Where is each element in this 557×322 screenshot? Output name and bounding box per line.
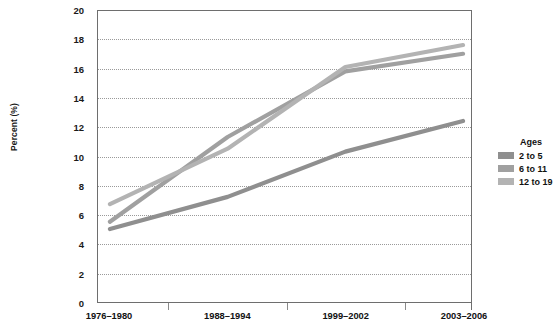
legend-swatch-icon	[498, 165, 514, 172]
y-axis-tick-label: 12	[73, 122, 84, 133]
y-axis-tick-label: 8	[79, 180, 84, 191]
x-axis-tick-labels: 1976–19801988–19941999–20022003–2006	[97, 311, 472, 322]
y-axis-tick-label: 6	[79, 210, 84, 221]
series-lines-svg	[98, 10, 471, 302]
x-axis-tick	[405, 303, 406, 310]
y-axis-tick-label: 14	[73, 92, 84, 103]
series-line-1	[110, 54, 463, 222]
y-axis-tick-label: 16	[73, 63, 84, 74]
legend-item-label: 2 to 5	[519, 150, 543, 162]
x-axis-tick	[168, 303, 169, 310]
y-axis-tick-label: 2	[79, 268, 84, 279]
legend-item[interactable]: 12 to 19	[498, 175, 556, 188]
x-axis-tick-label: 1976–1980	[86, 311, 133, 321]
y-axis-tick-label: 10	[73, 151, 84, 162]
x-axis-tick	[287, 303, 288, 310]
y-axis-tick-label: 4	[79, 239, 84, 250]
x-axis-tick-label: 2003–2006	[441, 311, 488, 321]
plot-area	[97, 10, 472, 303]
y-axis-tick-labels: 20181614121086420	[0, 0, 92, 322]
legend-item[interactable]: 2 to 5	[498, 149, 556, 162]
legend-item-label: 6 to 11	[519, 163, 547, 175]
series-line-0	[110, 121, 463, 229]
legend-title: Ages	[520, 136, 556, 148]
x-axis-ticks	[97, 303, 472, 311]
series-line-2	[110, 45, 463, 204]
legend: Ages 2 to 56 to 1112 to 19	[498, 136, 556, 188]
legend-items: 2 to 56 to 1112 to 19	[498, 149, 556, 188]
x-axis-tick-label: 1999–2002	[322, 311, 369, 321]
legend-swatch-icon	[498, 152, 514, 159]
line-chart: Percent (%) 20181614121086420 1976–19801…	[0, 0, 557, 322]
x-axis-tick-label: 1988–1994	[204, 311, 251, 321]
y-axis-tick-label: 20	[73, 5, 84, 16]
legend-item-label: 12 to 19	[519, 176, 553, 188]
y-axis-tick-label: 0	[79, 298, 84, 309]
x-axis-tick	[471, 303, 472, 310]
legend-swatch-icon	[498, 178, 514, 185]
y-axis-tick-label: 18	[73, 34, 84, 45]
legend-item[interactable]: 6 to 11	[498, 162, 556, 175]
